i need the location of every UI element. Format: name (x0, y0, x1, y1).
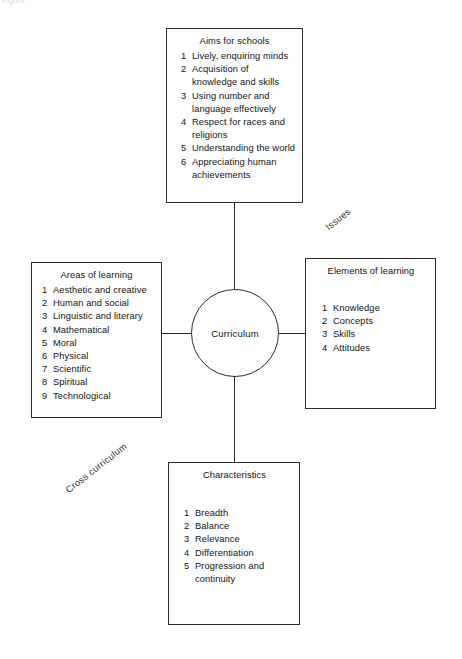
list-item-number: 6 (42, 350, 53, 363)
list-item-number: 1 (42, 284, 53, 297)
list-item: 2 Balance (184, 520, 294, 533)
list-item-text: Knowledge (333, 302, 430, 315)
list-item: 5 Moral (42, 337, 156, 350)
center-node-label: Curriculum (211, 328, 258, 339)
list-item: 5 Progression and continuity (184, 560, 294, 586)
box-characteristics-list: 1 Breadth 2 Balance 3 Relevance 4 Differ… (184, 507, 294, 586)
list-item: 8 Spiritual (42, 376, 156, 389)
label-cross-curriculum: Cross curriculum (64, 441, 129, 495)
list-item-number: 3 (322, 328, 333, 341)
list-item-text: Attitudes (333, 342, 430, 355)
list-item: 3 Skills (322, 328, 430, 341)
list-item-text: Mathematical (53, 324, 156, 337)
list-item-text: Aesthetic and creative (53, 284, 156, 297)
list-item: 9 Technological (42, 390, 156, 403)
list-item-text: Human and social (53, 297, 156, 310)
box-areas-list: 1 Aesthetic and creative 2 Human and soc… (42, 284, 156, 403)
box-aims-list: 1 Lively, enquiring minds 2 Acquisition … (181, 50, 296, 182)
list-item-text: Moral (53, 337, 156, 350)
list-item: 2 Human and social (42, 297, 156, 310)
list-item-number: 4 (42, 324, 53, 337)
center-node-curriculum: Curriculum (191, 289, 279, 377)
list-item: 3 Linguistic and literary (42, 310, 156, 323)
list-item: 3 Relevance (184, 533, 294, 546)
connector-areas-to-center (162, 333, 192, 334)
list-item: 7 Scientific (42, 363, 156, 376)
list-item-number: 4 (322, 342, 333, 355)
list-item-text: Spiritual (53, 376, 156, 389)
list-item-number: 3 (181, 90, 192, 103)
list-item-number: 7 (42, 363, 53, 376)
list-item-text: Appreciating human achievements (192, 156, 296, 182)
list-item-text: Balance (195, 520, 294, 533)
box-characteristics: Characteristics 1 Breadth 2 Balance 3 Re… (168, 462, 300, 625)
list-item-number: 4 (184, 547, 195, 560)
connector-center-to-characteristics (234, 377, 235, 462)
list-item-number: 5 (42, 337, 53, 350)
list-item: 6 Appreciating human achievements (181, 156, 296, 182)
list-item: 4 Respect for races and religions (181, 116, 296, 142)
box-elements-list: 1 Knowledge 2 Concepts 3 Skills 4 Attitu… (322, 302, 430, 355)
list-item: 4 Mathematical (42, 324, 156, 337)
list-item-text: Acquisition of knowledge and skills (192, 63, 296, 89)
box-aims-title: Aims for schools (173, 35, 296, 48)
box-elements-of-learning: Elements of learning 1 Knowledge 2 Conce… (305, 258, 436, 409)
list-item-number: 8 (42, 376, 53, 389)
list-item-number: 1 (181, 50, 192, 63)
list-item: 1 Aesthetic and creative (42, 284, 156, 297)
list-item: 6 Physical (42, 350, 156, 363)
list-item: 4 Attitudes (322, 342, 430, 355)
list-item-text: Progression and continuity (195, 560, 294, 586)
list-item-text: Lively, enquiring minds (192, 50, 296, 63)
list-item-text: Physical (53, 350, 156, 363)
list-item-number: 6 (181, 156, 192, 169)
list-item: 5 Understanding the world (181, 142, 296, 155)
box-elements-title: Elements of learning (312, 265, 430, 300)
list-item: 3 Using number and language effectively (181, 90, 296, 116)
box-areas-title: Areas of learning (37, 269, 156, 282)
list-item-text: Relevance (195, 533, 294, 546)
label-issues: Issues (324, 206, 353, 232)
list-item-text: Using number and language effectively (192, 90, 296, 116)
list-item-number: 2 (42, 297, 53, 310)
list-item-text: Technological (53, 390, 156, 403)
list-item-number: 1 (184, 507, 195, 520)
list-item: 1 Knowledge (322, 302, 430, 315)
list-item: 2 Acquisition of knowledge and skills (181, 63, 296, 89)
list-item-number: 2 (181, 63, 192, 76)
list-item-number: 4 (181, 116, 192, 129)
connector-aims-to-center (234, 203, 235, 289)
list-item-text: Concepts (333, 315, 430, 328)
list-item-number: 5 (184, 560, 195, 573)
list-item: 1 Breadth (184, 507, 294, 520)
list-item-text: Respect for races and religions (192, 116, 296, 142)
box-characteristics-title: Characteristics (175, 469, 294, 505)
box-areas-of-learning: Areas of learning 1 Aesthetic and creati… (31, 262, 162, 418)
list-item-text: Understanding the world (192, 142, 296, 155)
list-item: 1 Lively, enquiring minds (181, 50, 296, 63)
list-item-text: Skills (333, 328, 430, 341)
list-item-text: Scientific (53, 363, 156, 376)
connector-center-to-elements (279, 333, 306, 334)
list-item-number: 3 (184, 533, 195, 546)
list-item: 2 Concepts (322, 315, 430, 328)
list-item-number: 9 (42, 390, 53, 403)
list-item-number: 5 (181, 142, 192, 155)
list-item-text: Linguistic and literary (53, 310, 156, 323)
list-item: 4 Differentiation (184, 547, 294, 560)
box-aims-for-schools: Aims for schools 1 Lively, enquiring min… (166, 28, 303, 203)
list-item-number: 1 (322, 302, 333, 315)
list-item-number: 2 (184, 520, 195, 533)
list-item-text: Breadth (195, 507, 294, 520)
list-item-text: Differentiation (195, 547, 294, 560)
figure-caption: Figure (2, 0, 25, 5)
curriculum-diagram: Figure Aims for schools 1 Lively, enquir… (0, 0, 462, 659)
list-item-number: 3 (42, 310, 53, 323)
list-item-number: 2 (322, 315, 333, 328)
